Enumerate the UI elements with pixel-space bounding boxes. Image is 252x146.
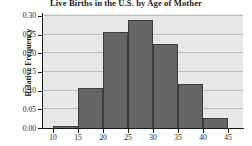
x-axis-tick-label: 20 [91,133,115,142]
y-axis-tick-label: 0.05 [0,105,36,114]
y-axis-tick [38,91,43,92]
plot-area [43,14,243,128]
y-axis-tick-label: 0.10 [0,86,36,95]
x-axis-line [42,128,244,129]
y-axis-tick [38,35,43,36]
histogram-bar [153,44,178,128]
histogram-bar [178,84,203,128]
x-axis-tick-label: 30 [141,133,165,142]
y-axis-tick [38,53,43,54]
y-axis-tick [38,16,43,17]
y-axis-tick-label: 0.25 [0,30,36,39]
y-axis-tick-label: 0.00 [0,124,36,133]
x-axis-tick-label: 10 [41,133,65,142]
chart-title: Live Births in the U.S. by Age of Mother [0,0,252,8]
x-axis-tick-label: 35 [166,133,190,142]
histogram-bar [128,20,153,128]
y-axis-tick-label: 0.20 [0,49,36,58]
y-axis-tick-label: 0.15 [0,67,36,76]
y-axis-label: Relative Frequency [24,8,33,118]
histogram-bar [78,88,103,128]
y-axis-tick [38,109,43,110]
y-axis-tick [38,72,43,73]
x-axis-tick-label: 40 [191,133,215,142]
x-axis-tick-label: 25 [116,133,140,142]
gridline [43,15,243,16]
y-axis-tick-label: 0.30 [0,11,36,20]
x-axis-tick-label: 15 [66,133,90,142]
x-axis-tick-label: 45 [216,133,240,142]
y-axis-tick [38,128,43,129]
histogram-chart: Live Births in the U.S. by Age of Mother… [0,0,252,146]
histogram-bar [103,32,128,128]
histogram-bar [203,118,228,128]
